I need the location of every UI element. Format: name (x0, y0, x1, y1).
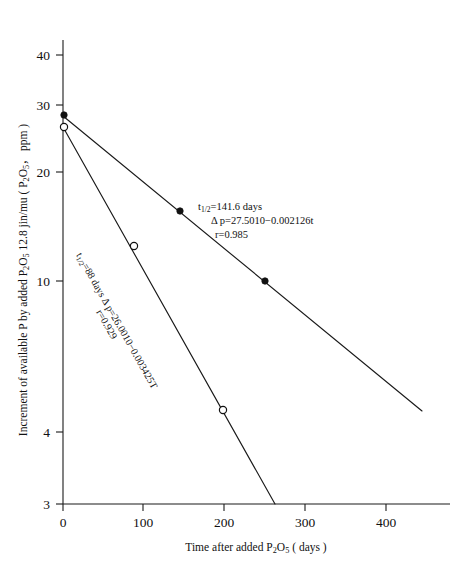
y-tick-label-4: 4 (43, 425, 50, 440)
y-title-part-1: Increment of available P by added P (17, 270, 30, 436)
x-tick-label-100: 100 (133, 515, 154, 530)
lower-equation-rest: p=26.0010−0.003425T (103, 301, 161, 391)
y-tick-label-30: 30 (37, 98, 51, 113)
y-tick-labels: 40 30 20 10 4 3 (37, 48, 51, 512)
data-point-filled-2 (262, 278, 268, 284)
lower-t-value: =88 days (80, 261, 109, 301)
y-tick-label-20: 20 (37, 165, 51, 180)
x-title-part-2: O (277, 541, 285, 553)
data-point-open-1 (130, 242, 137, 249)
data-point-open-2 (219, 406, 226, 413)
series-filled-circle-fitline (63, 116, 422, 411)
x-tick-marks (63, 504, 386, 511)
y-tick-label-10: 10 (37, 274, 51, 289)
upper-equation-rest: p=27.5010−0.002126t (217, 215, 313, 226)
lower-annotation-group: t1/2=88 days Δ p=26.0010−0.003425T r=0.9… (73, 251, 160, 392)
chart-figure: 40 30 20 10 4 3 0 100 200 300 400 (0, 0, 453, 567)
x-tick-label-400: 400 (376, 515, 397, 530)
lower-annotation-line1: t1/2=88 days Δ p=26.0010−0.003425T (73, 251, 160, 392)
upper-t-sub: 1/2 (201, 205, 211, 214)
y-tick-label-3: 3 (43, 497, 50, 512)
series-open-circle-group (60, 123, 275, 504)
y-title-part-2: O (17, 257, 29, 265)
x-tick-label-0: 0 (60, 515, 67, 530)
y-title-part-3: 12.8 jin/mu ( P (17, 181, 30, 253)
upper-annotation-correlation: r=0.985 (215, 229, 248, 240)
y-tick-marks (56, 55, 63, 504)
x-tick-labels: 0 100 200 300 400 (60, 515, 397, 530)
y-title-part-4: O (17, 169, 29, 177)
y-title-part-5: ， ppm ) (17, 124, 30, 165)
series-filled-circle-group (61, 112, 422, 411)
y-tick-label-40: 40 (37, 48, 51, 63)
chart-canvas: 40 30 20 10 4 3 0 100 200 300 400 (0, 0, 453, 567)
axis-group (63, 40, 450, 504)
y-axis-title: Increment of available P by added P2O5 1… (17, 124, 31, 437)
upper-annotation-equation: Δ p=27.5010−0.002126t (211, 215, 313, 226)
upper-t-value: =141.6 days (211, 201, 262, 212)
x-tick-label-200: 200 (214, 515, 235, 530)
data-point-open-0 (60, 123, 67, 130)
data-point-filled-1 (177, 208, 183, 214)
upper-annotation-group: t1/2=141.6 days Δ p=27.5010−0.002126t r=… (198, 201, 313, 240)
x-tick-label-300: 300 (295, 515, 316, 530)
series-open-circle-fitline (63, 127, 275, 504)
data-point-filled-0 (61, 112, 67, 118)
x-title-part-3: ( days ) (289, 541, 327, 554)
x-axis-title: Time after added P2O5 ( days ) (185, 541, 327, 555)
x-title-part-1: Time after added P (185, 541, 272, 553)
upper-annotation-halflife: t1/2=141.6 days (198, 201, 262, 214)
